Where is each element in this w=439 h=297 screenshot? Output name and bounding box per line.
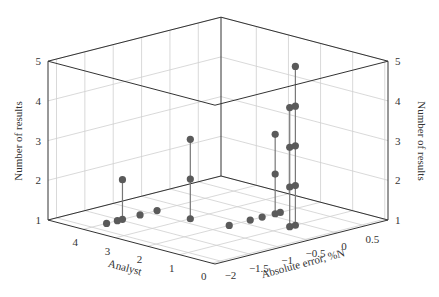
stems [122,66,295,226]
data-point [272,131,279,138]
grid-line-floor-x [198,182,365,226]
data-point [292,63,299,70]
grid-line-floor-x [113,203,280,247]
markers [103,63,299,230]
chart: 112233445501234−2−1.5−1−0.500.5 Number o… [0,0,439,297]
z-axis-label-left: Number of results [12,101,24,180]
data-point [119,216,126,223]
data-point [153,207,160,214]
data-point [187,175,194,182]
y-tick-label: 4 [73,236,79,248]
box-edge-top [48,17,221,61]
grid-line-wall-z [48,97,221,141]
box-edge-back-floor-right [221,176,388,220]
tick-labels: 112233445501234−2−1.5−1−0.500.5 [36,55,402,282]
z-tick-label-left: 3 [36,135,42,147]
z-tick-label-left: 1 [36,214,42,226]
box-edge-top [221,17,388,61]
data-point [247,217,254,224]
y-tick-label: 1 [169,262,175,274]
data-point [187,136,194,143]
x-axis-label: Absolute error, %N [260,246,346,280]
data-point [272,170,279,177]
box-edge-top [215,61,388,105]
data-point [292,222,299,229]
axes-box-front [48,17,388,264]
grid-line-wall-z2 [221,97,388,141]
box-edge-back-floor-left [48,176,221,220]
z-tick-label-left: 5 [36,55,42,67]
x-tick-label: −2 [225,269,237,281]
z-tick-label-right: 5 [395,55,401,67]
z-tick-label-left: 2 [36,174,42,186]
y-tick-label: 0 [201,270,207,282]
data-point [187,215,194,222]
x-tick-label: 0.5 [365,233,379,245]
y-tick-label: 3 [105,245,111,257]
grid-line-wall-z2 [221,57,388,101]
z-axis-label-right: Number of results [416,101,428,180]
z-tick-label-right: 1 [395,214,401,226]
grid-line-wall-z [48,136,221,180]
data-point [277,209,284,216]
z-tick-label-left: 4 [36,95,42,107]
grid-line-floor-x [142,196,309,240]
data-point [119,176,126,183]
z-tick-label-right: 2 [395,174,401,186]
z-tick-label-right: 3 [395,135,401,147]
box-edge-top [48,61,215,105]
data-point [226,222,233,229]
data-point [292,103,299,110]
data-point [259,213,266,220]
grid-lines [48,17,388,263]
data-point [292,142,299,149]
data-point [136,211,143,218]
data-point [103,220,110,227]
grid-line-wall-z [48,57,221,101]
z-tick-label-right: 4 [395,95,401,107]
grid-line-wall-z2 [221,136,388,180]
data-point [292,182,299,189]
grid-line-floor-y [180,211,353,255]
grid-line-floor-x [170,189,337,233]
